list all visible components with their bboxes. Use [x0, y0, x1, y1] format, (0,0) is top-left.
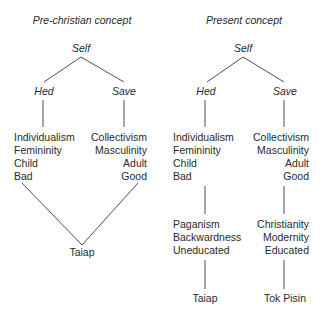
right-branch-hed: Hed: [196, 85, 215, 98]
trait: Adult: [91, 157, 147, 170]
trait: Child: [14, 157, 75, 170]
right-diagram-title: Present concept: [206, 14, 282, 27]
trait: Good: [253, 170, 309, 183]
trait: Masculinity: [91, 144, 147, 157]
trait: Femininity: [173, 144, 234, 157]
trait: Femininity: [14, 144, 75, 157]
association: Backwardness: [173, 231, 241, 244]
association: Educated: [257, 244, 309, 257]
right-outcome-tok-pisin: Tok Pisin: [264, 292, 306, 305]
trait: Individualism: [14, 131, 75, 144]
trait: Individualism: [173, 131, 234, 144]
right-hed-traits: Individualism Femininity Child Bad: [173, 131, 234, 183]
edge-self-hed-right: [207, 57, 243, 82]
association: Uneducated: [173, 244, 241, 257]
edge-self-save-right: [243, 57, 284, 82]
right-outcome-taiap: Taiap: [192, 292, 217, 305]
trait: Collectivism: [253, 131, 309, 144]
trait: Adult: [253, 157, 309, 170]
right-hed-associations: Paganism Backwardness Uneducated: [173, 218, 241, 257]
left-hed-traits: Individualism Femininity Child Bad: [14, 131, 75, 183]
association: Christianity: [257, 218, 309, 231]
trait: Child: [173, 157, 234, 170]
trait: Bad: [14, 170, 75, 183]
trait: Good: [91, 170, 147, 183]
edge-self-save-left: [81, 57, 124, 82]
right-branch-save: Save: [273, 85, 297, 98]
association: Paganism: [173, 218, 241, 231]
right-save-traits: Collectivism Masculinity Adult Good: [253, 131, 309, 183]
trait: Bad: [173, 170, 234, 183]
left-diagram-title: Pre-christian concept: [33, 14, 132, 27]
trait: Masculinity: [253, 144, 309, 157]
left-outcome-taiap: Taiap: [69, 246, 94, 259]
association: Modernity: [257, 231, 309, 244]
trait: Collectivism: [91, 131, 147, 144]
edge-self-hed-left: [44, 57, 81, 82]
left-save-traits: Collectivism Masculinity Adult Good: [91, 131, 147, 183]
left-root-self: Self: [72, 42, 90, 55]
right-root-self: Self: [234, 42, 252, 55]
left-branch-save: Save: [112, 85, 136, 98]
right-save-associations: Christianity Modernity Educated: [257, 218, 309, 257]
edge-traits-taiap-left: [22, 183, 138, 245]
left-branch-hed: Hed: [34, 85, 53, 98]
